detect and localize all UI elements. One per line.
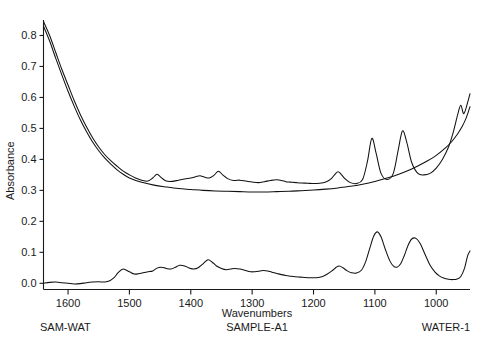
x-tick-label: 1100	[363, 297, 387, 309]
caption-left: SAM-WAT	[40, 321, 91, 333]
caption-right: WATER-1	[422, 321, 470, 333]
spectrum-traces	[44, 22, 471, 284]
y-tick-label: 0.4	[21, 153, 36, 165]
y-tick-label: 0.1	[21, 246, 36, 258]
y-tick-label: 0.0	[21, 277, 36, 289]
y-tick-label: 0.3	[21, 184, 36, 196]
x-tick-label: 1000	[424, 297, 448, 309]
y-tick-label: 0.2	[21, 215, 36, 227]
x-axis-title: Wavenumbers	[222, 307, 293, 319]
x-axis-ticks	[68, 290, 436, 295]
trace-sample-spectrum	[44, 22, 471, 184]
y-tick-label: 0.7	[21, 60, 36, 72]
x-tick-label: 1600	[56, 297, 80, 309]
trace-water-reference	[44, 26, 471, 192]
caption-center: SAMPLE-A1	[226, 321, 288, 333]
trace-difference-spectrum	[44, 232, 471, 284]
absorbance-spectrum-chart: 0.00.10.20.30.40.50.60.70.8 160015001400…	[0, 0, 482, 343]
y-tick-label: 0.5	[21, 122, 36, 134]
y-tick-label: 0.6	[21, 91, 36, 103]
y-axis-title: Absorbance	[4, 141, 16, 200]
y-tick-label: 0.8	[21, 29, 36, 41]
y-axis-tick-labels: 0.00.10.20.30.40.50.60.70.8	[21, 29, 36, 289]
x-axis: 1600150014001300120011001000	[44, 290, 471, 309]
spectrum-figure: 0.00.10.20.30.40.50.60.70.8 160015001400…	[0, 0, 482, 343]
x-tick-label: 1200	[301, 297, 325, 309]
y-axis-ticks	[40, 35, 44, 283]
y-axis: 0.00.10.20.30.40.50.60.70.8	[21, 20, 43, 290]
x-tick-label: 1400	[179, 297, 203, 309]
x-tick-label: 1500	[117, 297, 141, 309]
